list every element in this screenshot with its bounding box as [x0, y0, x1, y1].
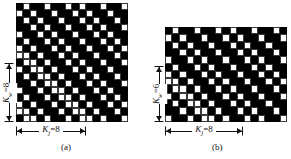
weave-cell: [251, 56, 258, 63]
weave-cell: [58, 108, 65, 115]
weave-cell: [58, 24, 65, 31]
weave-cell: [208, 56, 215, 63]
weave-cell: [51, 108, 58, 115]
weave-cell: [114, 115, 121, 122]
weave-cell: [273, 27, 280, 34]
weave-cell: [179, 42, 186, 49]
weave-cell: [100, 38, 107, 45]
weave-cell: [280, 34, 287, 41]
weave-cell: [172, 78, 179, 85]
weave-cell: [23, 52, 30, 59]
weave-cell: [23, 10, 30, 17]
weave-cell: [194, 49, 201, 56]
weave-cell: [114, 38, 121, 45]
weave-cell: [58, 80, 65, 87]
weave-cell: [273, 64, 280, 71]
weave-cell: [44, 73, 51, 80]
weave-cell: [215, 115, 222, 122]
weave-cell: [86, 73, 93, 80]
weave-cell: [79, 94, 86, 101]
weave-cell: [230, 27, 237, 34]
weave-cell: [230, 64, 237, 71]
weave-cell: [230, 78, 237, 85]
weave-cell: [273, 100, 280, 107]
weave-cell: [23, 45, 30, 52]
weave-cell: [72, 31, 79, 38]
weave-cell: [230, 85, 237, 92]
weave-cell: [187, 78, 194, 85]
weave-cell: [93, 52, 100, 59]
weave-cell: [237, 49, 244, 56]
weave-cell: [58, 52, 65, 59]
weave-cell: [37, 17, 44, 24]
weave-cell: [72, 24, 79, 31]
weave-cell: [100, 87, 107, 94]
weave-cell: [37, 52, 44, 59]
weave-cell: [72, 80, 79, 87]
weft-equals-b: =: [152, 88, 162, 93]
weave-cell: [258, 71, 265, 78]
weave-cell: [37, 31, 44, 38]
weave-cell: [107, 52, 114, 59]
weave-cell: [30, 108, 37, 115]
weave-cell: [251, 115, 258, 122]
weave-cell: [93, 59, 100, 66]
weave-cell: [23, 66, 30, 73]
weave-cell: [280, 115, 287, 122]
weave-cell: [265, 27, 272, 34]
weave-cell: [187, 71, 194, 78]
weave-cell: [65, 45, 72, 52]
weave-cell: [65, 24, 72, 31]
weave-cell: [44, 80, 51, 87]
weave-cell: [93, 101, 100, 108]
weave-cell: [107, 94, 114, 101]
weave-cell: [172, 27, 179, 34]
weave-cell: [79, 38, 86, 45]
weave-cell: [165, 64, 172, 71]
weave-cell: [86, 101, 93, 108]
weave-cell: [237, 71, 244, 78]
weave-cell: [114, 3, 121, 10]
weave-cell: [230, 42, 237, 49]
weave-cell: [30, 80, 37, 87]
weave-cell: [16, 10, 23, 17]
weave-cell: [65, 3, 72, 10]
weave-cell: [179, 56, 186, 63]
weave-cell: [201, 27, 208, 34]
weave-cell: [121, 3, 128, 10]
weft-subscript-b: w: [156, 93, 164, 98]
weave-cell: [201, 64, 208, 71]
weave-cell: [58, 45, 65, 52]
weave-cell: [72, 45, 79, 52]
weave-cell: [100, 80, 107, 87]
weave-cell: [93, 94, 100, 101]
weave-cell: [121, 52, 128, 59]
weave-cell: [58, 115, 65, 122]
weave-cell: [208, 93, 215, 100]
weave-cell: [72, 101, 79, 108]
weave-cell: [23, 17, 30, 24]
weave-cell: [179, 100, 186, 107]
weave-cell: [172, 100, 179, 107]
weave-cell: [258, 27, 265, 34]
weave-cell: [114, 80, 121, 87]
weave-cell: [79, 31, 86, 38]
weave-cell: [100, 66, 107, 73]
weave-cell: [165, 71, 172, 78]
weave-cell: [93, 87, 100, 94]
weave-cell: [179, 85, 186, 92]
panel-caption-b: (b): [212, 143, 223, 152]
weave-cell: [16, 31, 23, 38]
weave-cell: [172, 107, 179, 114]
weave-cell: [72, 87, 79, 94]
weave-cell: [172, 56, 179, 63]
weave-cell: [165, 115, 172, 122]
weave-cell: [208, 85, 215, 92]
weave-cell: [251, 78, 258, 85]
weave-cell: [172, 71, 179, 78]
weave-cell: [93, 66, 100, 73]
weave-cell: [114, 94, 121, 101]
weave-cell: [107, 24, 114, 31]
weave-cell: [208, 34, 215, 41]
weave-cell: [72, 3, 79, 10]
